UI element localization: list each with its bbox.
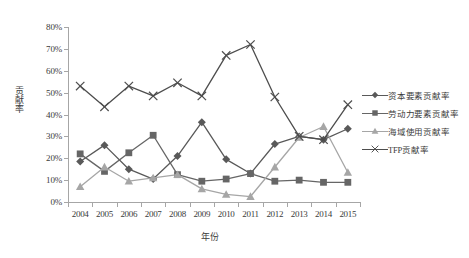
y-tick-label: 20% — [0, 153, 62, 163]
x-tick-mark — [117, 203, 118, 207]
legend-item-3[interactable]: 海域使用贡献率 — [362, 122, 468, 140]
x-tick-mark — [214, 203, 215, 207]
legend-item-1[interactable]: 资本要素贡献率 — [362, 86, 468, 104]
series-4 — [76, 40, 352, 144]
triangle-marker-icon — [362, 125, 388, 137]
series-svg — [68, 27, 360, 202]
data-point — [344, 100, 352, 108]
x-tick-mark — [190, 203, 191, 207]
legend-label: 劳动力要素贡献率 — [388, 107, 458, 119]
series-1 — [76, 118, 352, 183]
cross-marker-icon — [362, 143, 388, 155]
x-tick-label: 2015 — [331, 209, 365, 219]
x-tick-mark — [92, 203, 93, 207]
y-tick-label: 0% — [0, 197, 62, 207]
square-marker-icon — [362, 107, 388, 119]
y-axis-title: 贡献率 — [14, 86, 23, 113]
y-tick-label: 60% — [0, 66, 62, 76]
series-line — [80, 45, 348, 140]
series-line — [80, 122, 348, 179]
plot-area — [68, 27, 360, 202]
x-tick-mark — [263, 203, 264, 207]
data-point — [76, 158, 84, 166]
x-tick-mark — [165, 203, 166, 207]
x-tick-mark — [311, 203, 312, 207]
chart-container: 0%10%20%30%40%50%60%70%80% 2004200520062… — [0, 0, 469, 258]
y-tick-label: 30% — [0, 131, 62, 141]
diamond-marker-icon — [362, 89, 388, 101]
legend-item-4[interactable]: TFP贡献率 — [362, 140, 468, 158]
series-line — [80, 135, 348, 182]
data-point — [344, 125, 352, 133]
x-tick-mark — [360, 203, 361, 207]
x-tick-mark — [141, 203, 142, 207]
legend-label: 资本要素贡献率 — [388, 89, 450, 101]
y-tick-label: 70% — [0, 44, 62, 54]
y-tick-label: 10% — [0, 175, 62, 185]
legend-item-2[interactable]: 劳动力要素贡献率 — [362, 104, 468, 122]
legend-label: TFP贡献率 — [388, 143, 428, 155]
x-tick-mark — [238, 203, 239, 207]
x-tick-mark — [68, 203, 69, 207]
y-tick-label: 50% — [0, 88, 62, 98]
x-axis-title: 年份 — [0, 230, 420, 243]
chart-legend: 资本要素贡献率劳动力要素贡献率海域使用贡献率TFP贡献率 — [362, 86, 468, 158]
y-tick-label: 40% — [0, 110, 62, 120]
legend-label: 海域使用贡献率 — [388, 125, 450, 137]
x-tick-mark — [336, 203, 337, 207]
x-tick-mark — [287, 203, 288, 207]
y-tick-label: 80% — [0, 22, 62, 32]
